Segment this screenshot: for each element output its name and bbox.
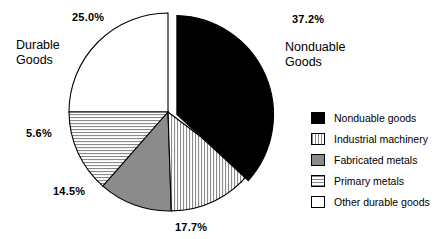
pie-value-label-other-durable-goods: 25.0% (72, 11, 104, 23)
pie-value-label-nondurable-goods: 37.2% (292, 13, 324, 25)
legend-swatch-solid-black-icon (311, 112, 325, 124)
pie-value-label-primary-metals: 5.6% (26, 127, 52, 139)
group-label-durable-line2: Goods (16, 53, 60, 68)
legend-swatch-solid-gray-icon (311, 154, 325, 166)
legend-label-industrial-machinery: Industrial machinery (334, 133, 428, 145)
pie-value-label-industrial-machinery: 17.7% (175, 221, 207, 233)
legend-item-fabricated-metals: Fabricated metals (311, 149, 430, 170)
group-label-nondurable-goods: Nonduable Goods (285, 40, 345, 70)
group-label-durable-line1: Durable (16, 38, 60, 53)
group-label-durable-goods: Durable Goods (16, 38, 60, 68)
legend-item-industrial-machinery: Industrial machinery (311, 128, 430, 149)
legend-label-nondurable-goods: Nonduable goods (334, 112, 416, 124)
legend-label-other-durable-goods: Other durable goods (334, 196, 430, 208)
pie-value-label-fabricated-metals: 14.5% (53, 185, 85, 197)
group-label-nondurable-line2: Goods (285, 55, 345, 70)
legend-item-primary-metals: Primary metals (311, 170, 430, 191)
pie-slice-other-durable-goods (69, 13, 168, 112)
pie-chart: 25.0% 37.2% 5.6% 14.5% 17.7% Durable Goo… (0, 0, 439, 239)
legend-swatch-solid-white-icon (311, 196, 325, 208)
legend-swatch-horizontal-stripes-icon (311, 175, 325, 187)
legend-item-other-durable-goods: Other durable goods (311, 191, 430, 212)
legend-item-nondurable-goods: Nonduable goods (311, 107, 430, 128)
legend-swatch-vertical-stripes-icon (311, 133, 325, 145)
legend-label-fabricated-metals: Fabricated metals (334, 154, 417, 166)
chart-legend: Nonduable goods Industrial machinery Fab… (311, 107, 430, 212)
legend-label-primary-metals: Primary metals (334, 175, 404, 187)
group-label-nondurable-line1: Nonduable (285, 40, 345, 55)
